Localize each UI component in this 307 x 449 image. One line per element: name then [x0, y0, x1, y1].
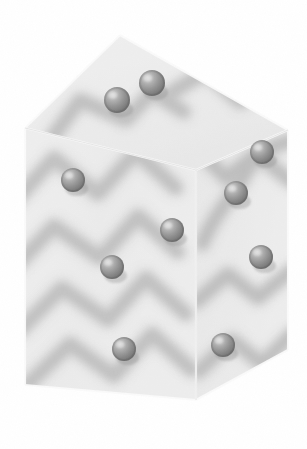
unit-cell-illustration	[0, 0, 307, 449]
grain-overlay	[0, 0, 307, 449]
figure-canvas	[0, 0, 307, 449]
